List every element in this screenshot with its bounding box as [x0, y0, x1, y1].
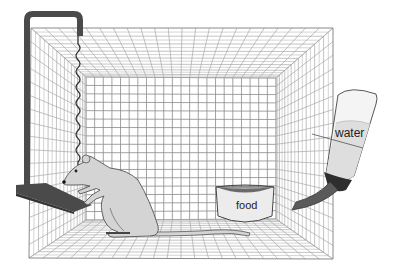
rat-ear	[82, 155, 90, 163]
rat-eye	[75, 170, 78, 173]
coiled-cable	[76, 36, 80, 166]
rat-nose	[62, 180, 66, 184]
wire-cage	[29, 28, 333, 259]
response-lever	[16, 183, 92, 214]
rat-body	[64, 156, 159, 237]
water-label: water	[335, 127, 364, 139]
skinner-box-diagram: water food	[0, 0, 397, 272]
food-label: food	[236, 200, 257, 211]
